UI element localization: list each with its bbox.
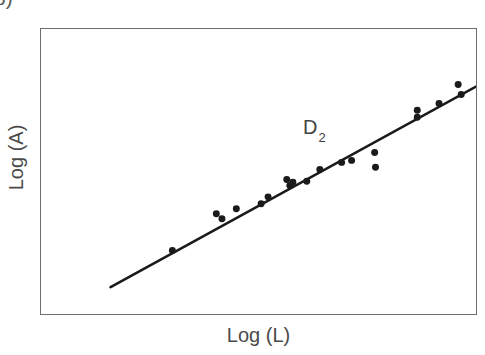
figure-container: b) Log (A) D2 Log (L): [0, 0, 485, 355]
annotation-subscript: 2: [318, 130, 325, 145]
annotation-symbol: D: [303, 116, 317, 138]
series-annotation-d2: D2: [303, 117, 325, 141]
data-point: [169, 247, 176, 254]
panel-letter: b): [0, 0, 13, 8]
fit-line-group: [111, 87, 476, 288]
y-axis-label: Log (A): [5, 113, 28, 203]
data-point: [258, 200, 265, 207]
data-point: [455, 81, 462, 88]
data-point: [372, 164, 379, 171]
data-point: [218, 215, 225, 222]
plot-canvas: [41, 29, 476, 314]
data-point: [436, 100, 443, 107]
x-axis-label: Log (L): [40, 324, 477, 347]
data-point: [233, 205, 240, 212]
data-point: [283, 176, 290, 183]
data-point: [338, 159, 345, 166]
data-point: [303, 178, 310, 185]
data-point: [348, 157, 355, 164]
data-point: [414, 107, 421, 114]
data-point: [414, 114, 421, 121]
scatter-points-group: [169, 81, 465, 254]
trend-line: [111, 87, 476, 288]
plot-frame: D2: [40, 28, 477, 315]
data-point: [289, 179, 296, 186]
data-point: [371, 149, 378, 156]
data-point: [458, 91, 465, 98]
data-point: [265, 193, 272, 200]
data-point: [213, 210, 220, 217]
data-point: [316, 166, 323, 173]
